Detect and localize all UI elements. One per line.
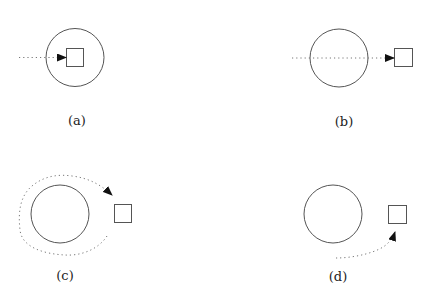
circle-obstacle xyxy=(46,29,104,87)
square-target xyxy=(115,205,132,223)
panel-c xyxy=(19,175,131,255)
diagram-canvas xyxy=(0,0,429,295)
square-target xyxy=(389,206,407,224)
panel-label-b: (b) xyxy=(335,114,353,129)
circle-obstacle xyxy=(31,185,89,243)
panel-label-a: (a) xyxy=(68,113,86,128)
panel-b xyxy=(292,29,413,87)
circle-obstacle xyxy=(304,185,362,243)
square-target xyxy=(67,49,84,67)
square-target xyxy=(395,49,413,67)
panel-d xyxy=(304,185,407,258)
panel-label-c: (c) xyxy=(56,268,73,283)
panel-a xyxy=(19,29,104,87)
dotted-path-arrow xyxy=(336,232,395,258)
panel-label-d: (d) xyxy=(329,269,347,284)
dotted-path-arrow xyxy=(19,175,112,255)
